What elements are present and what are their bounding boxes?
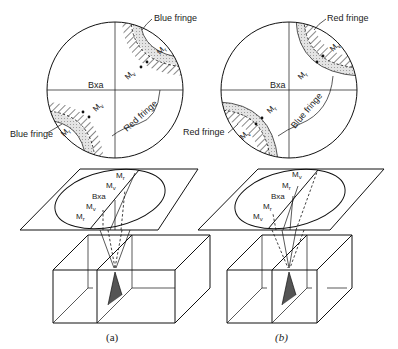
melatope-dot <box>88 116 91 119</box>
plane-label: Mv <box>253 212 263 222</box>
bxa-label: Bxa <box>88 80 104 90</box>
observation-plane-a: Mr Mv Bxa Mv Mr <box>20 160 198 238</box>
melatope-label: Mv <box>91 100 105 114</box>
bxa-label: Bxa <box>270 80 286 90</box>
fringe-label-bottom-left: Red fringe <box>183 127 225 137</box>
melatope-label: Mv <box>123 68 137 82</box>
interference-figure-b: Bxa Red fringe Red fringe Blue fringe Mv… <box>183 13 369 160</box>
plane-label: Mv <box>86 202 96 212</box>
panel-a: Bxa Blue fringe Blue fringe Red fringe M… <box>10 13 210 344</box>
plane-label: Mr <box>263 202 272 212</box>
fringe-label-top-right: Blue fringe <box>154 13 197 23</box>
plane-label: Mr <box>76 212 85 222</box>
plane-ellipse-a <box>49 160 170 238</box>
interference-figure-a: Bxa Blue fringe Blue fringe Red fringe M… <box>10 13 197 160</box>
fringe-label-bottom-left: Blue fringe <box>10 129 53 139</box>
fringe-label-center-right: Blue fringe <box>289 91 324 130</box>
melatope-dot <box>322 55 325 58</box>
plane-label: Bxa <box>92 192 106 201</box>
melatope-dot <box>316 61 319 64</box>
melatope-dot <box>82 111 85 114</box>
plane-label: Mv <box>106 181 116 191</box>
plane-label: Mr <box>116 171 125 181</box>
melatope-dot <box>255 123 258 126</box>
melatope-dot <box>140 66 143 69</box>
plane-label: Mv <box>292 170 302 180</box>
panel-caption-b: (b) <box>275 331 288 344</box>
optic-axis-dispersion-diagram: Bxa Blue fringe Blue fringe Red fringe M… <box>0 0 398 349</box>
melatope-dot <box>261 117 264 120</box>
plane-label: Mr <box>282 181 291 191</box>
plane-label: Bxa <box>271 192 285 201</box>
melatope-dot <box>146 61 149 64</box>
melatope-label: Mr <box>265 103 278 116</box>
crystal-block-a <box>53 235 210 323</box>
panel-caption-a: (a) <box>106 331 119 344</box>
fringe-label-top-right: Red fringe <box>327 13 369 23</box>
panel-b: Bxa Red fringe Red fringe Blue fringe Mv… <box>183 13 384 344</box>
melatope-label: Mr <box>296 69 309 82</box>
fringe-label-center-right: Red fringe <box>122 98 160 133</box>
observation-plane-b: Mv Mr Bxa Mr Mv <box>198 160 384 238</box>
light-cone-b <box>272 230 304 305</box>
